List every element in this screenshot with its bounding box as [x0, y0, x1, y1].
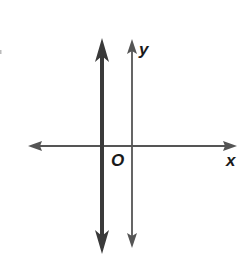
x-axis-label: x	[225, 151, 237, 170]
coordinate-plane-diagram: y O x	[0, 0, 248, 272]
x-axis-left-arrow-icon	[28, 141, 42, 151]
y-axis-label: y	[138, 40, 150, 59]
origin-label: O	[111, 151, 124, 170]
y-axis	[127, 39, 137, 248]
stray-mark	[0, 50, 2, 54]
x-axis-right-arrow-icon	[223, 141, 237, 151]
